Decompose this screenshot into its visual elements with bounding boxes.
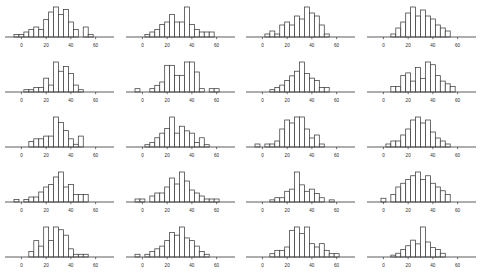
histogram-bar xyxy=(149,32,154,37)
histogram-bar xyxy=(199,252,204,257)
histogram-bar xyxy=(309,13,314,37)
histogram-bar xyxy=(425,16,430,37)
histogram-bar xyxy=(440,253,445,257)
x-axis-tick-label: 0 xyxy=(141,263,144,268)
histogram-bar xyxy=(440,141,445,147)
histogram-bar xyxy=(199,89,204,92)
histogram-bar xyxy=(179,227,184,257)
x-axis-ticks: 0204060 xyxy=(261,147,339,158)
x-axis-tick-label: 60 xyxy=(93,263,99,268)
histogram-bar xyxy=(304,7,309,37)
histogram-bar xyxy=(209,89,214,92)
histogram-bar xyxy=(295,227,300,257)
histogram-bar xyxy=(164,241,169,257)
histogram-bar xyxy=(275,141,280,147)
x-axis-tick-label: 40 xyxy=(309,98,315,103)
histogram-bar xyxy=(300,185,305,202)
histogram-bar xyxy=(300,117,305,147)
histogram-bars xyxy=(390,62,454,92)
histogram-bar xyxy=(435,250,440,258)
histogram-bar xyxy=(194,246,199,257)
x-axis-tick-label: 0 xyxy=(382,208,385,213)
histogram-bar xyxy=(174,184,179,202)
x-axis-tick-label: 60 xyxy=(93,43,99,48)
histogram-bar xyxy=(425,242,430,257)
x-axis-tick-label: 0 xyxy=(261,153,264,158)
histogram-bar xyxy=(410,7,415,37)
histogram-panel-18: 0204060 xyxy=(121,220,242,275)
histogram-bar xyxy=(39,87,44,92)
x-axis-tick-label: 40 xyxy=(430,43,436,48)
x-axis-ticks: 0204060 xyxy=(141,147,219,158)
histogram-bar xyxy=(415,244,420,257)
histogram-bars xyxy=(29,117,83,147)
histogram-bar xyxy=(280,25,285,37)
histogram-bar xyxy=(159,246,164,257)
histogram-bar xyxy=(395,141,400,147)
x-axis-tick-label: 0 xyxy=(20,98,23,103)
histogram-bar xyxy=(425,120,430,147)
histogram-bar xyxy=(179,75,184,92)
histogram-bar xyxy=(49,136,54,147)
histogram-bar xyxy=(314,193,319,202)
x-axis-tick-label: 40 xyxy=(189,153,195,158)
histogram-bar xyxy=(400,22,405,37)
histogram-bar xyxy=(34,241,39,257)
x-axis-ticks: 0204060 xyxy=(141,202,219,213)
histogram-bar xyxy=(83,27,88,37)
histogram-bar xyxy=(68,22,73,37)
histogram-panel-2: 0204060 xyxy=(121,0,242,55)
x-axis-tick-label: 20 xyxy=(405,43,411,48)
histogram-bar xyxy=(290,230,295,257)
histogram-bar xyxy=(29,30,34,38)
histogram-bar xyxy=(159,25,164,38)
x-axis-tick-label: 40 xyxy=(430,263,436,268)
histogram-panel-grid: 0204060020406002040600204060020406002040… xyxy=(0,0,482,275)
histogram-bar xyxy=(73,30,78,38)
histogram-bar xyxy=(44,136,49,147)
x-axis-tick-label: 0 xyxy=(141,98,144,103)
histogram-bar xyxy=(285,80,290,92)
histogram-bar xyxy=(34,139,39,147)
histogram-bar xyxy=(164,129,169,147)
x-axis-tick-label: 20 xyxy=(285,153,291,158)
x-axis-ticks: 0204060 xyxy=(261,37,339,48)
histogram-bar xyxy=(54,227,59,257)
x-axis-tick-label: 20 xyxy=(164,43,170,48)
histogram-bar xyxy=(199,138,204,147)
histogram-bar xyxy=(280,198,285,202)
histogram-bar xyxy=(189,190,194,202)
histogram-bars xyxy=(265,7,329,37)
histogram-panel-17: 0204060 xyxy=(0,220,121,275)
histogram-bar xyxy=(270,254,275,257)
histogram-plot: 0204060 xyxy=(241,220,362,275)
histogram-bars xyxy=(390,7,449,37)
x-axis-tick-label: 0 xyxy=(261,98,264,103)
histogram-plot: 0204060 xyxy=(0,165,121,220)
histogram-plot: 0204060 xyxy=(121,55,242,110)
x-axis-tick-label: 40 xyxy=(189,43,195,48)
histogram-bars xyxy=(270,172,334,202)
histogram-panel-5: 0204060 xyxy=(0,55,121,110)
histogram-bar xyxy=(34,197,39,202)
histogram-bar xyxy=(410,120,415,147)
histogram-bar xyxy=(154,30,159,38)
histogram-bar xyxy=(184,62,189,92)
histogram-bar xyxy=(275,198,280,202)
histogram-plot: 0204060 xyxy=(121,165,242,220)
histogram-bar xyxy=(275,87,280,92)
x-axis-tick-label: 0 xyxy=(20,153,23,158)
histogram-bar xyxy=(415,16,420,37)
x-axis-ticks: 0204060 xyxy=(20,37,98,48)
x-axis-tick-label: 0 xyxy=(382,263,385,268)
x-axis-tick-label: 0 xyxy=(382,153,385,158)
histogram-bar xyxy=(280,85,285,92)
histogram-bar xyxy=(189,25,194,38)
x-axis-ticks: 0204060 xyxy=(141,92,219,103)
histogram-bar xyxy=(430,19,435,37)
histogram-bar xyxy=(179,126,184,147)
histogram-bar xyxy=(39,139,44,147)
histogram-bar xyxy=(59,122,64,147)
histogram-bar xyxy=(189,241,194,257)
x-axis-ticks: 0204060 xyxy=(261,257,339,268)
